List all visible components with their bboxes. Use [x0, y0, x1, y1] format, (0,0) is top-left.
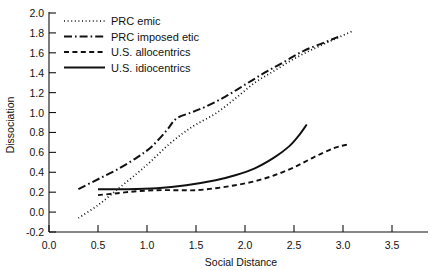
legend-label-u-s-idiocentrics: U.S. idiocentrics — [111, 62, 191, 74]
legend-label-u-s-allocentrics: U.S. allocentrics — [111, 46, 191, 58]
x-axis-tick-labels: 0.00.51.01.52.02.53.03.5 — [42, 239, 400, 251]
y-tick-label: 0.2 — [29, 186, 44, 198]
series-line-prc-imposed-etic — [78, 37, 338, 189]
x-tick-label: 0.0 — [42, 239, 57, 251]
x-axis-ticks — [49, 225, 392, 232]
y-tick-label: 0.6 — [29, 146, 44, 158]
chart-legend: PRC emicPRC imposed eticU.S. allocentric… — [64, 15, 200, 74]
y-tick-label: 1.2 — [29, 87, 44, 99]
y-tick-label: -0.2 — [26, 226, 44, 238]
y-tick-label: 1.8 — [29, 27, 44, 39]
y-axis-title: Dissociation — [4, 97, 16, 154]
y-tick-label: 1.6 — [29, 47, 44, 59]
y-axis-tick-labels: -0.20.00.20.40.60.81.01.21.41.61.82.0 — [26, 7, 44, 238]
x-tick-label: 3.5 — [385, 239, 400, 251]
x-tick-label: 3.0 — [336, 239, 351, 251]
y-tick-label: 2.0 — [29, 7, 44, 19]
x-tick-label: 0.5 — [91, 239, 106, 251]
series-line-u-s-idiocentrics — [98, 124, 307, 189]
x-tick-label: 1.5 — [189, 239, 204, 251]
x-tick-label: 2.0 — [238, 239, 253, 251]
dissociation-line-chart: -0.20.00.20.40.60.81.01.21.41.61.82.0 0.… — [0, 0, 434, 270]
chart-figure: -0.20.00.20.40.60.81.01.21.41.61.82.0 0.… — [0, 0, 434, 270]
x-axis-title: Social Distance — [205, 256, 278, 268]
y-tick-label: 1.4 — [29, 67, 44, 79]
series-line-u-s-allocentrics — [98, 144, 348, 195]
y-axis-ticks — [49, 13, 56, 232]
y-tick-label: 0.8 — [29, 126, 44, 138]
x-tick-label: 1.0 — [140, 239, 155, 251]
y-tick-label: 0.0 — [29, 206, 44, 218]
y-tick-label: 1.0 — [29, 107, 44, 119]
y-tick-label: 0.4 — [29, 166, 44, 178]
x-tick-label: 2.5 — [287, 239, 302, 251]
legend-label-prc-imposed-etic: PRC imposed etic — [111, 31, 200, 43]
series-lines — [78, 31, 352, 218]
legend-label-prc-emic: PRC emic — [111, 15, 161, 27]
